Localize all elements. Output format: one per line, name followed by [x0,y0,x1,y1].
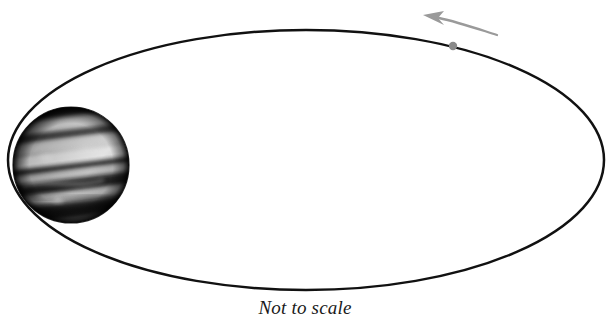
planet-jupiter [0,92,144,232]
figure-caption: Not to scale [0,296,610,320]
orbit-diagram: Not to scale [0,0,610,326]
orbit-direction-arrow-tail [439,18,497,35]
orbit-diagram-canvas [0,0,610,326]
planet-cloud-bands [0,92,144,232]
orbit-direction-arrow [423,11,497,35]
satellite-dot [449,42,457,50]
